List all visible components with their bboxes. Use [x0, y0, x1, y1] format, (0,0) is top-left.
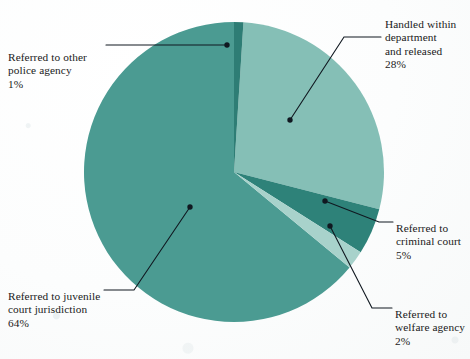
chart-page: Handled within department and released 2…: [0, 0, 470, 359]
callout-value-welfare: 2%: [395, 335, 470, 348]
callout-other-police-agency: Referred to other police agency 1%: [8, 38, 108, 104]
callout-label-criminal-court: Referred to criminal court: [396, 222, 461, 247]
callout-value-handled: 28%: [385, 58, 470, 71]
callout-juvenile-court: Referred to juvenile court jurisdiction …: [8, 277, 112, 343]
callout-value-juvenile: 64%: [8, 317, 112, 330]
callout-criminal-court: Referred to criminal court 5%: [396, 209, 470, 275]
leader-dot-juvenile-court: [187, 204, 192, 209]
callout-value-other-police: 1%: [8, 78, 108, 91]
leader-dot-other-police-agency: [224, 42, 229, 47]
callout-handled-within-department: Handled within department and released 2…: [385, 5, 470, 84]
callout-label-handled: Handled within department and released: [385, 18, 456, 56]
callout-welfare-agency: Referred to welfare agency 2%: [395, 295, 470, 359]
leader-dot-handled-within-department: [287, 117, 292, 122]
leader-dot-criminal-court: [322, 198, 327, 203]
leader-dot-welfare-agency: [327, 223, 332, 228]
callout-label-welfare: Referred to welfare agency: [395, 308, 465, 333]
callout-label-other-police: Referred to other police agency: [8, 51, 87, 76]
callout-label-juvenile: Referred to juvenile court jurisdiction: [8, 290, 100, 315]
callout-value-criminal-court: 5%: [396, 249, 470, 262]
